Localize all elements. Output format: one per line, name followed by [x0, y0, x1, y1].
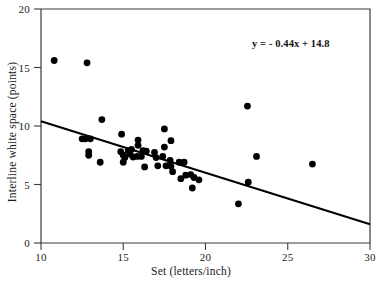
data-point: [118, 131, 125, 138]
data-point: [84, 59, 91, 66]
data-point: [161, 144, 168, 151]
data-point: [189, 185, 196, 192]
data-point: [154, 162, 161, 169]
y-tick-label-0: 0: [8, 237, 30, 249]
data-point: [128, 146, 135, 153]
data-point: [85, 152, 92, 159]
regression-equation-annotation: y = - 0.44x + 14.8: [252, 38, 330, 49]
data-point: [168, 137, 175, 144]
data-point: [181, 159, 188, 166]
data-point: [235, 200, 242, 207]
data-point: [120, 159, 127, 166]
data-point: [169, 168, 176, 175]
data-point: [141, 164, 148, 171]
x-tick-label-25: 25: [282, 251, 293, 263]
data-point: [51, 57, 58, 64]
data-point: [153, 154, 160, 161]
data-point: [98, 116, 105, 123]
data-point: [244, 103, 251, 110]
y-axis-ticks: [34, 9, 41, 243]
data-point: [167, 157, 174, 164]
scatter-plot-figure: 20 15 10 5 0 10 15 20 25 30 Set (letters…: [0, 0, 382, 285]
data-point: [161, 126, 168, 133]
x-tick-label-10: 10: [35, 251, 46, 263]
data-point: [138, 153, 145, 160]
data-points-group: [51, 57, 316, 207]
y-tick-label-20: 20: [8, 3, 30, 15]
data-point: [253, 153, 260, 160]
data-point: [87, 135, 94, 142]
x-axis-ticks: [41, 243, 370, 250]
x-tick-label-30: 30: [364, 251, 375, 263]
data-point: [135, 142, 142, 149]
data-point: [309, 161, 316, 168]
y-axis-label: Interline white space (points): [6, 42, 18, 222]
x-tick-label-20: 20: [200, 251, 211, 263]
data-point: [245, 179, 252, 186]
x-tick-label-15: 15: [118, 251, 129, 263]
data-point: [97, 159, 104, 166]
data-point: [143, 148, 150, 155]
data-point: [196, 176, 203, 183]
data-point: [159, 153, 166, 160]
x-axis-label: Set (letters/inch): [0, 265, 382, 277]
